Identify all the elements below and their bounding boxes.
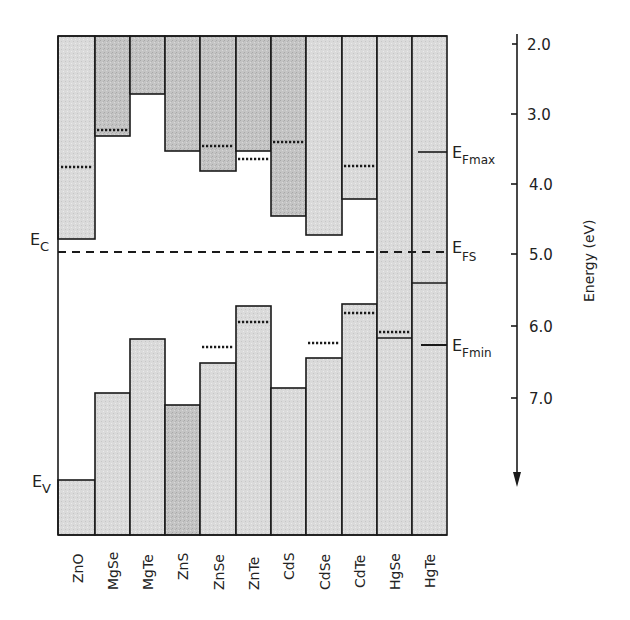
cb-znte — [236, 36, 271, 151]
efs-label: EFS — [452, 238, 476, 264]
tick-label: 7.0 — [529, 390, 553, 408]
cb-mgse — [95, 36, 130, 136]
cb-cdse — [306, 36, 342, 235]
material-label: HgTe — [422, 554, 438, 588]
material-labels: ZnO MgSe MgTe ZnS ZnSe ZnTe CdS CdSe CdT… — [70, 552, 438, 590]
band-alignment-diagram: EC EV EFmax EFS EFmin 2.0 3.0 4.0 5.0 6.… — [0, 0, 630, 620]
efmax-label: EFmax — [452, 143, 495, 167]
material-label: ZnTe — [246, 557, 262, 590]
tick-label: 6.0 — [529, 318, 553, 336]
vb-znse — [200, 363, 236, 535]
ec-label: EC — [30, 230, 49, 254]
material-label: CdSe — [317, 554, 333, 590]
cb-zno — [58, 36, 95, 239]
axis-title: Energy (eV) — [581, 219, 597, 302]
material-label: ZnSe — [211, 554, 227, 590]
tick-label: 5.0 — [529, 246, 553, 264]
material-label: CdS — [281, 552, 297, 580]
col-hgse — [377, 36, 412, 535]
axis-arrow-icon — [513, 472, 521, 487]
tick-label: 4.0 — [529, 176, 553, 194]
cb-zns — [165, 36, 200, 151]
tick-labels: 2.0 3.0 4.0 5.0 6.0 7.0 — [527, 36, 553, 408]
vb-cdte — [342, 304, 377, 535]
material-label: ZnS — [175, 553, 191, 580]
vb-cdse — [306, 358, 342, 535]
ev-label: EV — [32, 472, 51, 496]
semimetal-columns — [377, 36, 447, 535]
material-label: MgSe — [105, 552, 121, 590]
cb-znse — [200, 36, 236, 171]
vb-zns — [165, 405, 200, 535]
tick-label: 2.0 — [527, 36, 551, 54]
vb-zno — [58, 480, 95, 535]
material-label: CdTe — [352, 555, 368, 588]
vb-mgse — [95, 393, 130, 535]
cb-mgte — [130, 36, 165, 94]
cb-cdte — [342, 36, 377, 199]
efmin-label: EFmin — [452, 336, 492, 360]
energy-axis — [511, 34, 517, 474]
material-label: MgTe — [140, 554, 156, 590]
tick-label: 3.0 — [527, 106, 551, 124]
valence-bands — [58, 304, 377, 535]
vb-znte — [236, 306, 271, 535]
conduction-bands — [58, 36, 377, 239]
material-label: HgSe — [387, 553, 403, 590]
cb-cds — [271, 36, 306, 216]
vb-mgte — [130, 339, 165, 535]
vb-cds — [271, 388, 306, 535]
col-hgte — [412, 36, 447, 535]
material-label: ZnO — [70, 554, 86, 583]
